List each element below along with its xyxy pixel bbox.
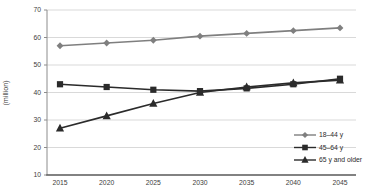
x-tick-label: 2030 [192, 179, 207, 186]
x-tick-label: 2025 [146, 179, 161, 186]
diamond-marker [57, 42, 64, 49]
y-tick-label: 50 [33, 61, 41, 68]
square-marker [302, 145, 308, 151]
series-square [57, 76, 343, 95]
y-tick-label: 40 [33, 89, 41, 96]
y-tick-label: 10 [33, 171, 41, 178]
square-marker [150, 87, 156, 93]
square-marker [104, 84, 110, 90]
square-marker [337, 76, 343, 82]
y-tick-label: 60 [33, 34, 41, 41]
diamond-marker [243, 30, 250, 37]
square-marker [244, 85, 250, 91]
legend-item: 65 y and older [294, 156, 363, 164]
x-tick-label: 2040 [286, 179, 301, 186]
square-marker [197, 88, 203, 94]
diamond-marker [337, 24, 344, 31]
chart-svg: (million) 102030405060702015202020252030… [0, 0, 366, 192]
square-marker [57, 81, 63, 87]
series-diamond [57, 24, 344, 49]
square-marker [290, 81, 296, 87]
y-axis-title: (million) [1, 80, 10, 105]
diamond-marker [103, 40, 110, 47]
diamond-marker [302, 132, 308, 138]
x-tick-label: 2020 [99, 179, 114, 186]
population-projection-chart: (million) 102030405060702015202020252030… [0, 0, 366, 192]
legend-item: 18–44 y [294, 131, 344, 139]
y-tick-label: 20 [33, 144, 41, 151]
x-tick-label: 2015 [52, 179, 67, 186]
diamond-marker [197, 33, 204, 40]
legend-label: 45–64 y [319, 144, 344, 152]
y-tick-label: 30 [33, 116, 41, 123]
x-tick-label: 2035 [239, 179, 254, 186]
legend-label: 65 y and older [319, 156, 363, 164]
x-tick-label: 2045 [332, 179, 347, 186]
diamond-marker [290, 27, 297, 34]
legend-item: 45–64 y [294, 144, 344, 152]
y-tick-label: 70 [33, 6, 41, 13]
legend-label: 18–44 y [319, 131, 344, 139]
